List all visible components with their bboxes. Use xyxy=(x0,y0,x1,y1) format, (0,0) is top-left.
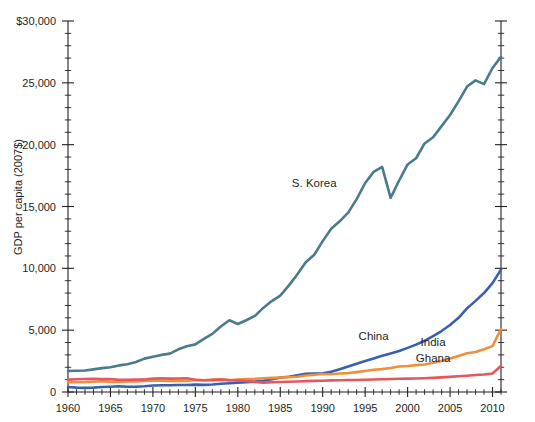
series-label-s-korea: S. Korea xyxy=(292,177,337,189)
series-line-china xyxy=(68,270,501,388)
y-tick-label: 5,000 xyxy=(28,324,56,336)
x-axis xyxy=(68,387,501,397)
x-tick-label: 1975 xyxy=(183,402,207,414)
y-axis xyxy=(62,21,74,392)
x-tick-label: 1970 xyxy=(141,402,165,414)
x-tick-label: 2005 xyxy=(438,402,462,414)
y-tick-label: 0 xyxy=(50,386,56,398)
series-line-ghana xyxy=(68,366,501,383)
series-label-china: China xyxy=(359,330,390,342)
x-tick-label: 1990 xyxy=(310,402,334,414)
x-tick-label: 2010 xyxy=(480,402,504,414)
gdp-per-capita-line-chart: 05,00010,00015,00020,00025,000$30,000 19… xyxy=(0,0,535,422)
x-tick-label: 1965 xyxy=(98,402,122,414)
y-tick-label: 25,000 xyxy=(22,77,56,89)
y-tick-label: 10,000 xyxy=(22,262,56,274)
chart-canvas: 05,00010,00015,00020,00025,000$30,000 19… xyxy=(0,0,535,422)
x-tick-label: 2000 xyxy=(395,402,419,414)
x-tick-label: 1995 xyxy=(353,402,377,414)
y-tick-label: 15,000 xyxy=(22,201,56,213)
x-tick-label: 1960 xyxy=(56,402,80,414)
y-tick-label: $30,000 xyxy=(16,15,56,27)
series-labels: S. KoreaChinaIndiaGhana xyxy=(292,177,451,364)
series-label-ghana: Ghana xyxy=(416,352,451,364)
x-tick-label: 1980 xyxy=(226,402,250,414)
series-label-india: India xyxy=(421,336,447,348)
x-tick-label: 1985 xyxy=(268,402,292,414)
y-axis-title: GDP per capita (2007$) xyxy=(12,139,24,255)
series-line-s-korea xyxy=(68,57,501,371)
y-tick-label: 20,000 xyxy=(22,139,56,151)
x-tick-labels: 1960196519701975198019851990199520002005… xyxy=(56,402,505,414)
